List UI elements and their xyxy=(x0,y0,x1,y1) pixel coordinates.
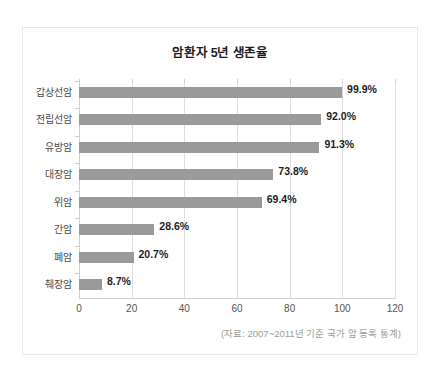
y-tick-mark xyxy=(75,246,79,247)
x-tick-mark-80 xyxy=(290,79,291,83)
bar-row: 유방암91.3% xyxy=(79,136,395,160)
bar[interactable] xyxy=(79,279,102,290)
y-tick-mark xyxy=(75,108,79,109)
y-tick-mark xyxy=(75,218,79,219)
y-tick-mark xyxy=(75,163,79,164)
x-axis-line xyxy=(79,298,395,299)
category-label: 대장암 xyxy=(45,166,72,181)
bar-row: 위암69.4% xyxy=(79,191,395,215)
bar[interactable] xyxy=(79,224,154,235)
bar-row: 전립선암92.0% xyxy=(79,108,395,132)
bar[interactable] xyxy=(79,197,262,208)
bar-row: 췌장암8.7% xyxy=(79,273,395,297)
bar[interactable] xyxy=(79,252,134,263)
bar-value-label: 20.7% xyxy=(139,248,169,260)
bar-value-label: 8.7% xyxy=(107,275,131,287)
x-tick-mark-100 xyxy=(342,79,343,83)
x-tick-label-120: 120 xyxy=(387,303,404,314)
plot-area: 갑상선암99.9%전립선암92.0%유방암91.3%대장암73.8%위암69.4… xyxy=(79,79,395,299)
x-tick-mark-20 xyxy=(132,79,133,83)
bar-value-label: 73.8% xyxy=(278,165,308,177)
category-label: 간암 xyxy=(54,221,72,236)
bar-value-label: 92.0% xyxy=(326,110,356,122)
category-label: 갑상선암 xyxy=(36,84,72,99)
bar[interactable] xyxy=(79,87,342,98)
x-tick-mark-0 xyxy=(79,79,80,83)
x-tick-label-0: 0 xyxy=(76,303,82,314)
x-tick-label-60: 60 xyxy=(231,303,242,314)
bar-row: 간암28.6% xyxy=(79,218,395,242)
x-tick-label-20: 20 xyxy=(126,303,137,314)
x-tick-label-100: 100 xyxy=(334,303,351,314)
category-label: 폐암 xyxy=(54,249,72,264)
x-tick-mark-40 xyxy=(184,79,185,83)
x-tick-label-80: 80 xyxy=(284,303,295,314)
gridline-120 xyxy=(395,79,396,299)
bar-value-label: 99.9% xyxy=(347,83,377,95)
x-tick-label-40: 40 xyxy=(179,303,190,314)
bar-value-label: 28.6% xyxy=(159,220,189,232)
bar-row: 폐암20.7% xyxy=(79,246,395,270)
category-label: 전립선암 xyxy=(36,111,72,126)
x-tick-mark-120 xyxy=(395,79,396,83)
y-tick-mark xyxy=(75,191,79,192)
x-tick-mark-60 xyxy=(237,79,238,83)
bar-value-label: 69.4% xyxy=(267,193,297,205)
source-note: (자료: 2007~2011년 기준 국가 암 등록 통계) xyxy=(221,326,401,340)
chart-title: 암환자 5년 생존율 xyxy=(23,42,417,61)
bar-value-label: 91.3% xyxy=(324,138,354,150)
y-tick-mark xyxy=(75,273,79,274)
category-label: 유방암 xyxy=(45,139,72,154)
bar-row: 대장암73.8% xyxy=(79,163,395,187)
y-tick-mark xyxy=(75,136,79,137)
chart-card: 암환자 5년 생존율 갑상선암99.9%전립선암92.0%유방암91.3%대장암… xyxy=(22,27,418,355)
bar[interactable] xyxy=(79,142,319,153)
category-label: 췌장암 xyxy=(45,276,72,291)
bar-row: 갑상선암99.9% xyxy=(79,81,395,105)
category-label: 위암 xyxy=(54,194,72,209)
bar[interactable] xyxy=(79,114,321,125)
bar[interactable] xyxy=(79,169,273,180)
